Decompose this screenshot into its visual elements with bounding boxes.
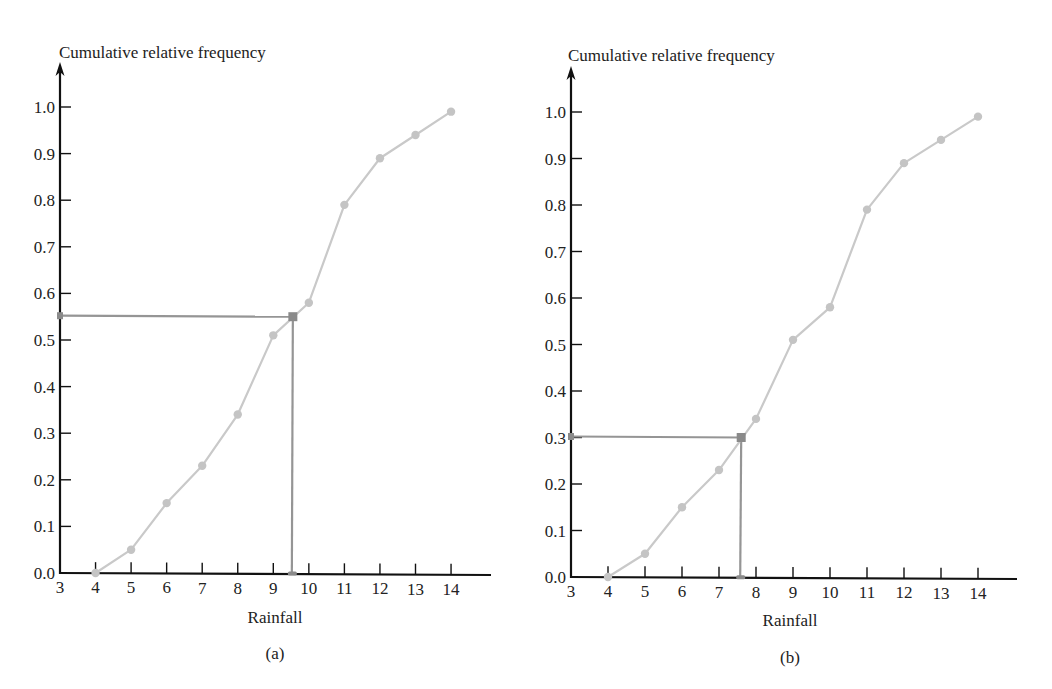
x-tick-label: 11 (859, 583, 875, 602)
data-point (863, 205, 871, 213)
y-tick-label: 0.2 (545, 475, 566, 494)
y-tick-label: 0.2 (34, 471, 55, 490)
x-tick-label: 8 (752, 583, 761, 602)
data-point (900, 159, 908, 167)
data-point (376, 154, 384, 162)
ogive-line (96, 112, 452, 573)
x-tick-label: 9 (269, 579, 278, 598)
x-tick-label: 12 (896, 583, 913, 602)
y-tick-label: 0.6 (34, 284, 55, 303)
y-axis-marker (57, 312, 63, 319)
y-tick-label: 0.6 (545, 289, 566, 308)
x-axis-ticks: 34567891011121314 (567, 566, 987, 603)
y-tick-label: 0.9 (545, 150, 566, 169)
y-tick-label: 0.5 (34, 331, 55, 350)
figure-canvas: Cumulative relative frequency 0.00.10.20… (0, 0, 1052, 689)
horizontal-guide-line (571, 437, 741, 438)
x-tick-label: 7 (198, 579, 207, 598)
chart-panel-a: Cumulative relative frequency 0.00.10.20… (34, 43, 491, 663)
ogive-line (608, 117, 978, 577)
data-point (127, 546, 135, 554)
x-axis-ticks: 34567891011121314 (56, 562, 460, 599)
data-point (198, 462, 206, 470)
x-tick-label: 12 (371, 579, 388, 598)
y-axis-title: Cumulative relative frequency (59, 43, 266, 62)
y-tick-label: 0.8 (34, 191, 55, 210)
panel-caption: (a) (266, 644, 285, 663)
x-axis-title: Rainfall (248, 608, 303, 627)
y-tick-label: 0.8 (545, 196, 566, 215)
x-tick-label: 9 (789, 583, 798, 602)
x-axis-marker (736, 575, 745, 579)
percentile-guide-lines (568, 433, 745, 579)
y-tick-label: 0.3 (545, 429, 566, 448)
axes (567, 66, 1018, 579)
y-tick-label: 0.0 (34, 564, 55, 583)
y-tick-label: 0.1 (545, 522, 566, 541)
y-axis-title: Cumulative relative frequency (568, 46, 775, 65)
y-tick-label: 0.5 (545, 336, 566, 355)
y-tick-label: 0.9 (34, 145, 55, 164)
data-point (305, 299, 313, 307)
vertical-guide-line (292, 317, 293, 574)
data-point (234, 410, 242, 418)
figure: Cumulative relative frequency 0.00.10.20… (0, 0, 1052, 689)
x-tick-label: 5 (127, 578, 136, 597)
y-tick-label: 0.4 (545, 382, 567, 401)
x-tick-label: 6 (678, 582, 687, 601)
x-tick-label: 6 (162, 578, 171, 597)
data-point (826, 303, 834, 311)
axes (56, 62, 492, 575)
data-point (162, 499, 170, 507)
data-point (340, 201, 348, 209)
x-axis-line (59, 573, 491, 575)
y-tick-label: 1.0 (34, 98, 55, 117)
intersection-marker (737, 433, 746, 442)
x-axis-title: Rainfall (763, 611, 818, 630)
data-point (937, 136, 945, 144)
x-tick-label: 3 (567, 582, 576, 601)
intersection-marker (288, 312, 297, 321)
y-tick-label: 0.4 (34, 378, 56, 397)
data-point (447, 107, 455, 115)
y-tick-label: 0.7 (545, 243, 567, 262)
x-tick-label: 13 (933, 584, 950, 603)
y-tick-label: 0.3 (34, 424, 55, 443)
data-point (604, 573, 612, 581)
data-point (974, 112, 982, 120)
y-tick-label: 0.1 (34, 517, 55, 536)
x-axis-marker (288, 572, 297, 576)
vertical-guide-line (740, 438, 741, 578)
y-axis-ticks: 0.00.10.20.30.40.50.60.70.80.91.0 (545, 103, 582, 587)
data-point (752, 415, 760, 423)
x-tick-label: 11 (336, 579, 352, 598)
x-tick-label: 3 (56, 578, 65, 597)
x-tick-label: 10 (300, 579, 317, 598)
data-point (411, 131, 419, 139)
y-tick-label: 0.7 (34, 238, 56, 257)
x-tick-label: 10 (822, 583, 839, 602)
x-tick-label: 14 (443, 580, 461, 599)
x-tick-label: 7 (715, 583, 724, 602)
data-point (641, 550, 649, 558)
y-axis-marker (568, 433, 574, 440)
panel-caption: (b) (780, 648, 800, 667)
x-tick-label: 13 (407, 580, 424, 599)
x-tick-label: 5 (641, 582, 650, 601)
x-tick-label: 8 (234, 579, 243, 598)
percentile-guide-lines (57, 312, 297, 575)
data-point (678, 503, 686, 511)
y-tick-label: 0.0 (545, 568, 566, 587)
x-tick-label: 4 (604, 582, 613, 601)
ogive-series (91, 107, 455, 577)
x-tick-label: 4 (91, 578, 100, 597)
data-point (715, 466, 723, 474)
y-axis-ticks: 0.00.10.20.30.40.50.60.70.80.91.0 (34, 98, 71, 583)
x-tick-label: 14 (970, 584, 988, 603)
horizontal-guide-line (60, 316, 293, 317)
y-tick-label: 1.0 (545, 103, 566, 122)
data-point (789, 336, 797, 344)
chart-panel-b: Cumulative relative frequency 0.00.10.20… (545, 46, 1017, 667)
data-point (91, 569, 99, 577)
data-point (269, 331, 277, 339)
